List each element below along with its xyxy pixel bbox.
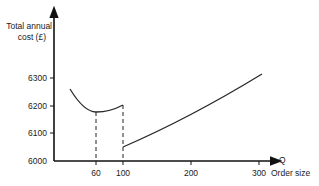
- cost-curve-segment-1: [70, 89, 123, 112]
- cost-curve-segment-2: [123, 74, 262, 147]
- y-tick-6300: 6300: [3, 73, 47, 83]
- x-axis-title: Order size: [271, 168, 310, 178]
- y-axis-title-line2: cost (£): [0, 32, 46, 42]
- x-axis-symbol: Q: [279, 155, 286, 165]
- x-tick-60: 60: [84, 168, 108, 178]
- x-tick-300: 300: [247, 168, 271, 178]
- y-tick-6000: 6000: [3, 156, 47, 166]
- y-tick-6200: 6200: [3, 101, 47, 111]
- x-tick-100: 100: [111, 168, 135, 178]
- x-tick-200: 200: [179, 168, 203, 178]
- y-tick-6100: 6100: [3, 128, 47, 138]
- y-axis-title-line1: Total annual: [0, 21, 52, 31]
